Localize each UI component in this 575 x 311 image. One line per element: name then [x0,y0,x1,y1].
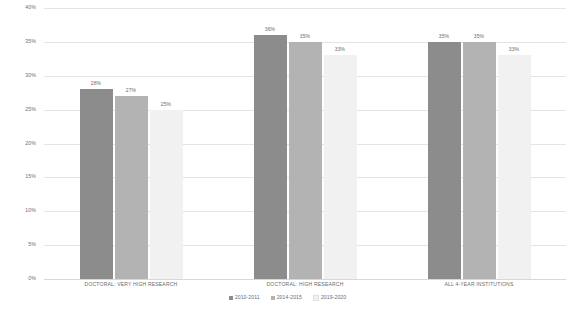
bar-chart: 40%35%30%25%20%15%10%5%0% 28%27%25%36%35… [0,0,575,311]
legend-label: 2010-2011 [235,295,260,300]
bar-value-label: 25% [161,102,171,107]
legend-swatch-icon [313,295,319,301]
x-axis-category-label: DOCTORAL: HIGH RESEARCH [218,282,392,294]
bar-wrapper: 35% [289,8,322,279]
bar[interactable] [254,35,287,279]
plot-area: 28%27%25%36%35%33%35%35%33% [44,8,566,279]
y-axis-tick-label: 30% [25,73,36,78]
bar[interactable] [115,96,148,279]
bars: 35%35%33% [392,8,566,279]
bar-wrapper: 33% [324,8,357,279]
bar-value-label: 36% [265,27,275,32]
y-axis-tick-label: 35% [25,39,36,44]
bar-wrapper: 35% [463,8,496,279]
bar[interactable] [150,110,183,279]
bar[interactable] [463,42,496,279]
y-axis: 40%35%30%25%20%15%10%5%0% [0,8,40,279]
bar[interactable] [80,89,113,279]
legend-label: 2019-2020 [321,295,346,300]
chart-legend: 2010-20112014-20152019-2020 [0,295,575,301]
bar-value-label: 35% [474,34,484,39]
bar-value-label: 27% [126,88,136,93]
bar-groups: 28%27%25%36%35%33%35%35%33% [44,8,566,279]
bars: 36%35%33% [218,8,392,279]
bar-wrapper: 33% [498,8,531,279]
bar[interactable] [498,55,531,279]
y-axis-tick-label: 5% [28,243,36,248]
bar-value-label: 28% [91,81,101,86]
legend-item[interactable]: 2019-2020 [313,295,346,301]
axis-baseline [44,279,566,280]
bar-value-label: 33% [335,47,345,52]
bar-value-label: 35% [439,34,449,39]
y-axis-tick-label: 40% [25,5,36,10]
bar-wrapper: 35% [428,8,461,279]
bar-group: 36%35%33% [218,8,392,279]
bars: 28%27%25% [44,8,218,279]
bar[interactable] [428,42,461,279]
y-axis-tick-label: 25% [25,107,36,112]
legend-item[interactable]: 2014-2015 [271,295,302,300]
y-axis-tick-label: 10% [25,209,36,214]
bar-wrapper: 25% [150,8,183,279]
legend-swatch-icon [271,296,275,300]
x-axis-category-label: DOCTORAL: VERY HIGH RESEARCH [44,282,218,294]
legend-item[interactable]: 2010-2011 [229,295,260,300]
bar-value-label: 35% [300,34,310,39]
bar-wrapper: 28% [80,8,113,279]
x-axis-category-labels: DOCTORAL: VERY HIGH RESEARCHDOCTORAL: HI… [44,282,566,294]
bar-wrapper: 36% [254,8,287,279]
y-axis-tick-label: 0% [28,276,36,281]
y-axis-tick-label: 20% [25,141,36,146]
legend-label: 2014-2015 [277,295,302,300]
bar-group: 35%35%33% [392,8,566,279]
y-axis-tick-label: 15% [25,175,36,180]
bar[interactable] [289,42,322,279]
legend-swatch-icon [229,296,233,300]
bar[interactable] [324,55,357,279]
bar-wrapper: 27% [115,8,148,279]
bar-group: 28%27%25% [44,8,218,279]
x-axis-category-label: ALL 4-YEAR INSTITUTIONS [392,282,566,294]
bar-value-label: 33% [509,47,519,52]
